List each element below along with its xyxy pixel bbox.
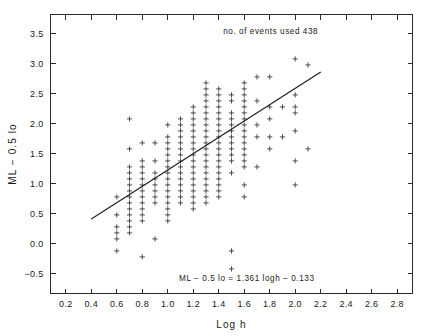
data-point-marker: [140, 188, 145, 193]
data-point-marker: [203, 116, 208, 121]
data-point-marker: [229, 170, 234, 175]
data-point-marker: [127, 218, 132, 223]
data-point-marker: [216, 182, 221, 187]
data-point-marker: [203, 200, 208, 205]
data-point-marker: [178, 182, 183, 187]
data-point-marker: [229, 158, 234, 163]
data-point-marker: [165, 182, 170, 187]
data-point-marker: [114, 194, 119, 199]
data-point-marker: [178, 128, 183, 133]
data-point-marker: [127, 146, 132, 151]
data-point-marker: [127, 212, 132, 217]
data-point-marker: [127, 164, 132, 169]
data-point-marker: [254, 134, 259, 139]
data-point-marker: [242, 128, 247, 133]
data-point-marker: [191, 182, 196, 187]
data-point-marker: [165, 176, 170, 181]
x-tick-label: 2.6: [365, 299, 378, 309]
data-point-marker: [127, 176, 132, 181]
data-point-marker: [165, 140, 170, 145]
data-point-marker: [216, 128, 221, 133]
data-point-marker: [165, 188, 170, 193]
data-point-marker: [203, 98, 208, 103]
data-point-marker: [127, 170, 132, 175]
data-point-marker: [191, 146, 196, 151]
data-point-marker: [242, 110, 247, 115]
data-point-marker: [191, 104, 196, 109]
regression-equation-annotation: ML − 0.5 lo = 1.361 logh − 0.133: [179, 274, 314, 283]
data-point-marker: [203, 194, 208, 199]
data-point-marker: [203, 152, 208, 157]
data-point-marker: [114, 248, 119, 253]
data-point-marker: [254, 74, 259, 79]
data-point-marker: [229, 92, 234, 97]
data-point-marker: [178, 194, 183, 199]
data-point-marker: [140, 206, 145, 211]
data-point-marker: [229, 266, 234, 271]
data-point-marker: [293, 128, 298, 133]
y-tick-label: 3.0: [30, 59, 43, 69]
data-point-marker: [114, 230, 119, 235]
data-point-marker: [203, 86, 208, 91]
data-point-marker: [216, 176, 221, 181]
data-point-marker: [178, 146, 183, 151]
data-point-marker: [203, 176, 208, 181]
x-tick-label: 2.2: [314, 299, 327, 309]
data-point-marker: [229, 152, 234, 157]
data-point-marker: [216, 104, 221, 109]
data-point-marker: [165, 152, 170, 157]
data-point-marker: [178, 188, 183, 193]
data-point-marker: [127, 200, 132, 205]
data-point-marker: [203, 80, 208, 85]
data-point-marker: [140, 140, 145, 145]
x-tick-label: 0.4: [85, 299, 98, 309]
data-point-marker: [216, 164, 221, 169]
data-point-marker: [242, 104, 247, 109]
data-point-marker: [203, 182, 208, 187]
data-point-marker: [178, 134, 183, 139]
data-point-marker: [242, 158, 247, 163]
y-tick-label: 3.5: [30, 29, 43, 39]
data-point-marker: [152, 200, 157, 205]
data-point-marker: [229, 110, 234, 115]
data-point-marker: [152, 194, 157, 199]
data-point-marker: [165, 134, 170, 139]
data-point-marker: [216, 116, 221, 121]
data-point-marker: [293, 158, 298, 163]
data-point-marker: [216, 170, 221, 175]
data-point-marker: [242, 80, 247, 85]
data-point-marker: [293, 92, 298, 97]
data-point-marker: [140, 218, 145, 223]
data-point-marker: [178, 170, 183, 175]
data-point-marker: [242, 122, 247, 127]
data-point-markers: [114, 56, 310, 271]
data-point-marker: [191, 164, 196, 169]
data-point-marker: [242, 182, 247, 187]
data-point-marker: [178, 200, 183, 205]
data-point-marker: [152, 188, 157, 193]
data-point-marker: [140, 200, 145, 205]
data-point-marker: [178, 152, 183, 157]
y-tick-label: 0.0: [30, 239, 43, 249]
data-point-marker: [254, 164, 259, 169]
data-point-marker: [203, 92, 208, 97]
data-point-marker: [140, 158, 145, 163]
data-point-marker: [242, 194, 247, 199]
data-point-marker: [216, 110, 221, 115]
data-point-marker: [242, 140, 247, 145]
x-tick-label: 0.6: [110, 299, 123, 309]
data-point-marker: [127, 230, 132, 235]
data-point-marker: [178, 122, 183, 127]
data-point-marker: [242, 164, 247, 169]
data-point-marker: [267, 116, 272, 121]
data-point-marker: [254, 98, 259, 103]
y-tick-label: 2.5: [30, 89, 43, 99]
data-point-marker: [242, 92, 247, 97]
data-point-marker: [216, 152, 221, 157]
data-point-marker: [216, 92, 221, 97]
data-point-marker: [203, 134, 208, 139]
data-point-marker: [165, 218, 170, 223]
data-point-marker: [229, 134, 234, 139]
data-point-marker: [152, 140, 157, 145]
data-point-marker: [191, 200, 196, 205]
